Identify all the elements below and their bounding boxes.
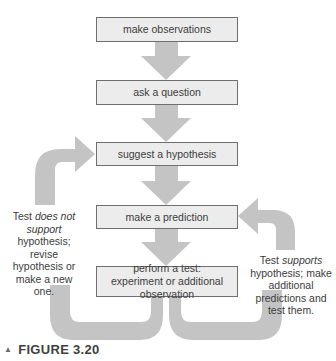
note-prefix: Test (260, 254, 282, 266)
figure-caption: ▲ FIGURE 3.20 (4, 342, 100, 357)
loop-arrow-right-up (238, 198, 295, 250)
step-label: make observations (123, 23, 211, 36)
step-make-observations: make observations (96, 17, 238, 42)
down-arrow-icon (141, 165, 191, 205)
note-prefix: Test (13, 210, 35, 222)
step-ask-question: ask a question (96, 80, 238, 105)
step-label: ask a question (133, 86, 201, 99)
step-label: make a prediction (126, 211, 209, 224)
down-arrow-icon (141, 41, 191, 80)
left-note-test-does-not-support: Test does not support hypothesis; revise… (6, 210, 82, 298)
figure-number: FIGURE 3.20 (18, 342, 99, 357)
note-suffix: hypothesis; make additional predictions … (250, 267, 332, 317)
step-perform-test: perform a test: experiment or additional… (96, 266, 238, 297)
triangle-marker-icon: ▲ (4, 345, 12, 354)
note-emphasis: supports (282, 254, 322, 266)
step-make-prediction: make a prediction (96, 205, 238, 229)
note-suffix: hypothesis; revise hypothesis or make a … (13, 235, 75, 297)
down-arrow-icon (141, 228, 191, 266)
step-label: suggest a hypothesis (118, 148, 217, 161)
step-label: perform a test: experiment or additional… (107, 262, 227, 301)
right-note-test-supports: Test supports hypothesis; make additiona… (249, 254, 333, 317)
down-arrow-icon (141, 104, 191, 142)
step-suggest-hypothesis: suggest a hypothesis (96, 142, 238, 166)
loop-arrow-left-up (35, 136, 95, 205)
